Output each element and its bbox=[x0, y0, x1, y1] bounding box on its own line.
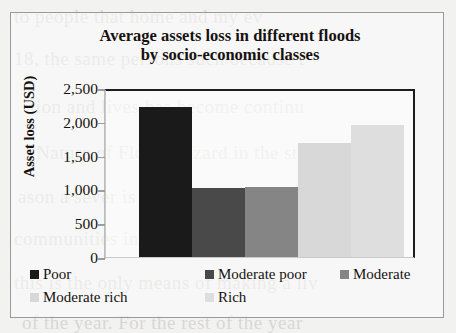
legend-row: PoorModerate poorModerate bbox=[30, 266, 434, 289]
legend-item-poor[interactable]: Poor bbox=[30, 266, 71, 283]
y-axis-tick bbox=[98, 258, 105, 260]
legend-label: Rich bbox=[218, 289, 246, 306]
legend-label: Poor bbox=[43, 266, 71, 283]
y-axis-title: Asset loss (USD) bbox=[21, 71, 38, 183]
legend-item-rich[interactable]: Rich bbox=[205, 289, 246, 306]
bar-moderate bbox=[245, 187, 298, 257]
bar-moderate-rich bbox=[298, 143, 351, 257]
y-axis-tick-label: 2,000 bbox=[42, 114, 98, 132]
y-axis-tick bbox=[98, 123, 105, 125]
legend-label: Moderate bbox=[353, 266, 410, 283]
legend-swatch-icon bbox=[205, 270, 214, 279]
y-axis-tick-label: 500 bbox=[42, 215, 98, 233]
y-axis-tick-label: 2,500 bbox=[42, 80, 98, 98]
y-axis-tick bbox=[98, 224, 105, 226]
legend-label: Moderate poor bbox=[218, 266, 307, 283]
legend-row: Moderate richRich bbox=[30, 289, 434, 312]
chart-page: to people that home and my ev18, the sam… bbox=[0, 0, 456, 333]
legend-item-moderate-poor[interactable]: Moderate poor bbox=[205, 266, 307, 283]
legend-item-moderate-rich[interactable]: Moderate rich bbox=[30, 289, 128, 306]
legend-swatch-icon bbox=[205, 293, 214, 302]
plot-area bbox=[105, 89, 415, 258]
legend-item-moderate[interactable]: Moderate bbox=[340, 266, 410, 283]
bar-group bbox=[106, 91, 413, 257]
legend-swatch-icon bbox=[30, 293, 39, 302]
y-axis-tick bbox=[98, 190, 105, 192]
chart-legend: PoorModerate poorModerateModerate richRi… bbox=[30, 266, 434, 312]
y-axis-tick bbox=[98, 89, 105, 91]
y-axis-tick-label: 1,500 bbox=[42, 148, 98, 166]
y-axis-tick bbox=[98, 157, 105, 159]
legend-swatch-icon bbox=[30, 270, 39, 279]
y-axis-tick-label: 0 bbox=[42, 249, 98, 267]
bar-rich bbox=[351, 125, 404, 257]
y-axis-tick-label: 1,000 bbox=[42, 181, 98, 199]
bar-poor bbox=[139, 107, 192, 257]
legend-swatch-icon bbox=[340, 270, 349, 279]
legend-label: Moderate rich bbox=[43, 289, 128, 306]
bar-moderate-poor bbox=[192, 188, 245, 257]
